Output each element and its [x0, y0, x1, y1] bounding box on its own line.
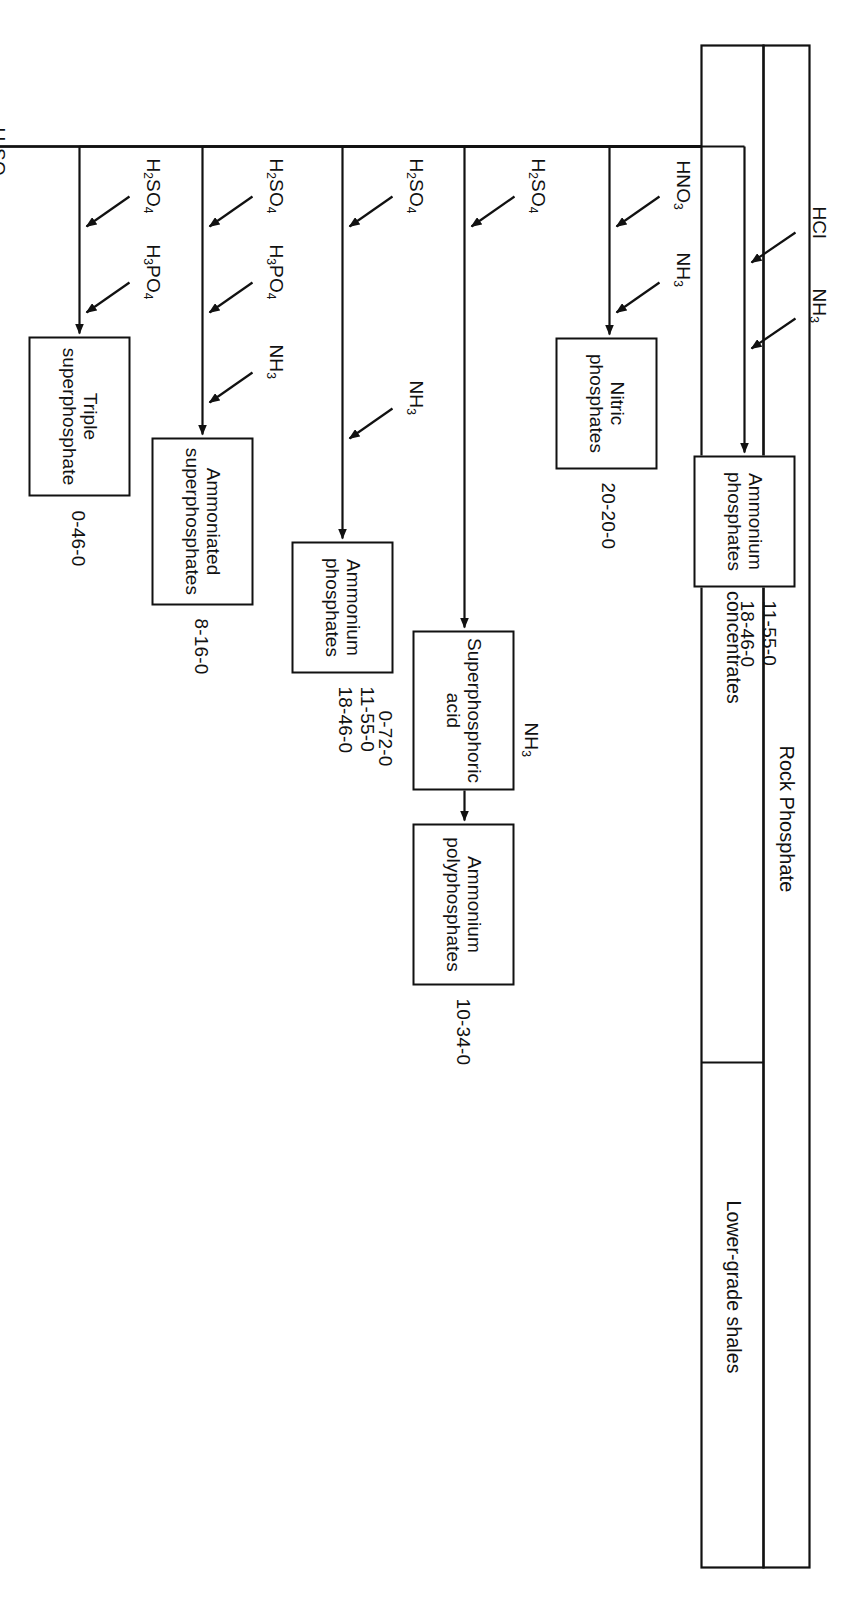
product-box-ammonium-phosphates-hcl[interactable]: Ammonium phosphates [693, 455, 795, 587]
product-box-superphosphoric-acid-high[interactable]: Superphosphoric acid [412, 630, 514, 790]
product-box-ammonium-polyphosphates-high[interactable]: Ammonium polyphosphates [412, 823, 514, 985]
reagent-label-nh3: NH3 [519, 722, 541, 756]
branch-label-lower-grade: Lower-grade shales [721, 1200, 744, 1373]
reagent-label-h3po4: H3PO4 [141, 244, 163, 299]
reagent-label-nh3: NH3 [404, 380, 426, 414]
reagent-label-h2so4: H2SO4 [404, 158, 426, 213]
reagent-label-h2so4: H2SO4 [0, 127, 8, 182]
reagent-label-h2so4: H2SO4 [526, 158, 548, 213]
reagent-label-h2so4: H2SO4 [264, 158, 286, 213]
product-box-triple-superphosphate[interactable]: Triple superphosphate [28, 336, 130, 496]
flow-diagram-canvas: Rock Phosphate Higher-grade concentrates… [0, 0, 847, 1597]
product-value-ammonium-phosphates-h2so4: 11-55-0 18-46-0 [333, 686, 377, 753]
product-box-ammoniated-superphosphates[interactable]: Ammoniated superphosphates [151, 437, 253, 605]
reagent-label-hno3: HNO3 [671, 160, 693, 209]
product-value-ammonium-phosphates-hcl: 11-55-0 18-46-0 [735, 600, 779, 667]
source-material-label: Rock Phosphate [774, 745, 797, 892]
reagent-label-h2so4: H2SO4 [141, 158, 163, 213]
product-value-ammonium-polyphosphates-high: 10-34-0 [451, 998, 473, 1065]
product-value-triple-superphosphate: 0-46-0 [66, 510, 88, 566]
reagent-label-h3po4: H3PO4 [264, 244, 286, 299]
reagent-label-nh3: NH3 [264, 344, 286, 378]
product-box-ammonium-phosphates-h2so4[interactable]: Ammonium phosphates [291, 541, 393, 673]
product-value-nitric-phosphates: 20-20-0 [596, 482, 618, 549]
figure-page: Rock Phosphate Higher-grade concentrates… [0, 0, 847, 1597]
reagent-label-hcl: HCl [807, 206, 829, 238]
product-box-nitric-phosphates[interactable]: Nitric phosphates [555, 337, 657, 469]
reagent-label-nh3: NH3 [671, 252, 693, 286]
reagent-label-nh3: NH3 [807, 288, 829, 322]
flow-connectors [0, 0, 847, 1597]
product-value-ammoniated-superphosphates: 8-16-0 [189, 618, 211, 674]
